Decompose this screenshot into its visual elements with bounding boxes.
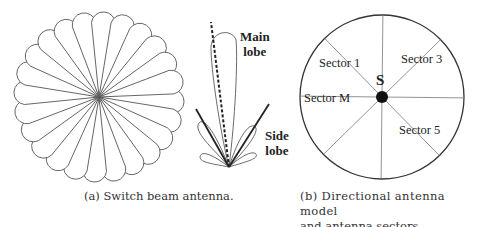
main-lobe-label-line2: lobe — [240, 44, 270, 59]
sector-3-label: Sector 3 — [401, 52, 442, 67]
side-lobe-label-line1: Side — [265, 128, 289, 143]
sector-m-label: Sector M — [304, 91, 350, 106]
station-label: S — [376, 72, 384, 89]
caption-a: (a) Switch beam antenna. — [84, 189, 234, 204]
main-lobe-label: Main lobe — [240, 29, 270, 59]
sector-1-label: Sector 1 — [319, 56, 360, 71]
side-lobe-label-line2: lobe — [265, 143, 289, 158]
sector-5-label: Sector 5 — [399, 123, 440, 138]
switch-beam-pattern — [14, 12, 184, 182]
caption-b-line1: (b) Directional antenna model — [300, 189, 470, 219]
station-node — [376, 91, 388, 103]
side-lobe-label: Side lobe — [265, 128, 289, 158]
main-lobe-label-line1: Main — [240, 29, 270, 44]
caption-b: (b) Directional antenna model and antenn… — [300, 189, 470, 227]
caption-b-line2: and antenna sectors. — [300, 219, 470, 227]
